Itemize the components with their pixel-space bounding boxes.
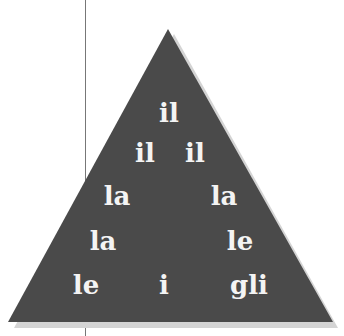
article-word: la xyxy=(211,183,238,209)
article-word: i xyxy=(159,272,169,298)
article-word: il xyxy=(159,100,179,126)
article-word: la xyxy=(104,183,131,209)
article-word: gli xyxy=(230,272,268,298)
article-word: il xyxy=(185,140,205,166)
article-word: la xyxy=(90,228,117,254)
article-word: le xyxy=(227,228,253,254)
triangle-body xyxy=(8,29,333,322)
triangle-graphic xyxy=(0,0,344,336)
article-word: le xyxy=(73,272,99,298)
article-word: il xyxy=(135,140,155,166)
